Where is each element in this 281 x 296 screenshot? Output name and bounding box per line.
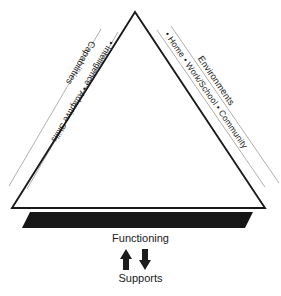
right-inner-guide-line [157,30,265,187]
right-outer-guide-line [171,26,279,183]
triangle-outline [12,12,265,208]
supports-label: Supports [0,272,281,284]
functioning-label: Functioning [0,232,281,244]
base-slab [22,212,253,228]
triangle-diagram: Capabilities • Intelligence • Adaptive S… [0,0,281,296]
arrow-down-icon [139,249,151,270]
right-items-label: • Home • Work/School • Community [163,30,251,151]
arrow-up-icon [120,249,132,270]
diagram-canvas: Capabilities • Intelligence • Adaptive S… [0,0,281,296]
